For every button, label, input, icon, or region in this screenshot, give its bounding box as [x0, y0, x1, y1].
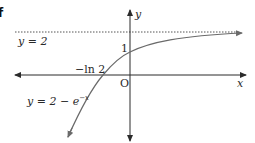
corner-mark: f — [0, 6, 3, 20]
curve-label: y = 2 − e−x — [27, 95, 89, 107]
x-intercept-label: −ln 2 — [75, 64, 105, 75]
origin-label: O — [120, 78, 129, 89]
asymptote-label: y = 2 — [18, 36, 47, 47]
y-axis-label: y — [135, 9, 141, 20]
graph-canvas — [0, 0, 255, 143]
y-intercept-label: 1 — [121, 43, 128, 54]
graph-figure: f y = 2 1 −ln 2 O x y y = 2 − e−x — [0, 0, 255, 143]
curve-label-base: y = 2 − e — [27, 95, 79, 108]
curve-label-exponent: −x — [79, 94, 89, 102]
function-curve-tail — [68, 128, 72, 137]
x-axis-label: x — [237, 78, 243, 89]
function-curve — [68, 33, 242, 137]
